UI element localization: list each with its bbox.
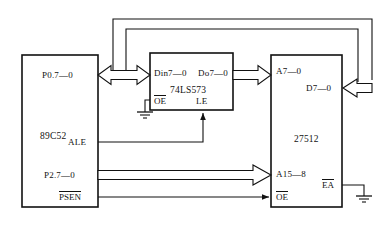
pin-label-psen: PSEN	[59, 191, 81, 202]
wire-ea-to-ground	[342, 185, 364, 196]
block-label-27512: 27512	[294, 134, 319, 144]
bus-do7-to-a7	[233, 66, 271, 85]
pin-label-latch-oe: OE	[154, 95, 166, 106]
pin-label-eprom-oe: OE	[276, 191, 288, 202]
pin-label-ea: EA	[322, 179, 334, 190]
pin-label-ale: ALE	[68, 137, 86, 147]
block-label-74ls573: 74LS573	[170, 85, 206, 95]
pin-label-do7-0: Do7—0	[198, 68, 228, 78]
pin-label-a15-8: A15—8	[276, 169, 306, 179]
bus-p2-to-a15	[98, 165, 271, 185]
pin-label-d7-0: D7—0	[306, 83, 331, 93]
circuit-diagram: Din7-0 BIDIRECTIONAL BLOCK ARROW =======…	[0, 0, 388, 235]
pin-label-din7-0: Din7—0	[154, 68, 187, 78]
ground-symbol-latch	[137, 112, 153, 118]
ground-symbol-eprom	[356, 196, 372, 202]
pin-label-p0-7-0: P0.7—0	[42, 70, 73, 80]
bus-p0-to-din-bidirectional	[98, 66, 150, 85]
block-label-89c52: 89C52	[40, 131, 66, 141]
arrowhead-d7-to-p0	[343, 79, 372, 97]
wire-ale-to-le	[98, 113, 203, 142]
pin-label-p2-7-0: P2.7—0	[44, 170, 75, 180]
pin-label-le: LE	[196, 96, 207, 106]
pin-label-a7-0: A7—0	[276, 66, 301, 76]
